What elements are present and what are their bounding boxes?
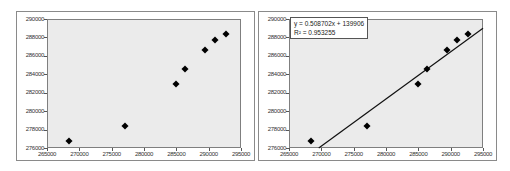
y-axis-tick: [44, 56, 47, 57]
x-axis-tick: [209, 148, 210, 151]
y-axis-tick-label: 282000: [16, 89, 44, 96]
trendline-equation-label[interactable]: y = 0.508702x + 139906 R² = 0.953255: [290, 17, 368, 39]
y-axis-tick: [44, 37, 47, 38]
y-axis-tick: [44, 93, 47, 94]
scatter-chart-with-trendline[interactable]: y = 0.508702x + 139906 R² = 0.953255 290…: [258, 11, 497, 161]
x-axis-tick-label: 285000: [160, 151, 192, 158]
y-axis-tick-label: 290000: [16, 16, 44, 23]
y-axis-tick-label: 288000: [16, 34, 44, 41]
x-axis-tick-label: 270000: [63, 151, 95, 158]
y-axis-tick-label: 278000: [16, 126, 44, 133]
x-axis-tick: [79, 148, 80, 151]
x-axis-tick-label: 295000: [225, 151, 257, 158]
y-axis-tick-label: 286000: [16, 52, 44, 59]
x-axis-tick: [144, 148, 145, 151]
y-axis-tick-label: 280000: [16, 108, 44, 115]
y-axis-tick-label: 284000: [16, 71, 44, 78]
x-axis-tick: [176, 148, 177, 151]
equation-text: y = 0.508702x + 139906: [294, 19, 364, 28]
y-axis-tick: [44, 19, 47, 20]
x-axis-tick-label: 290000: [193, 151, 225, 158]
x-axis-tick-label: 280000: [128, 151, 160, 158]
scatter-chart-raw[interactable]: 2900002880002860002840002820002800002780…: [16, 11, 255, 161]
y-axis-tick: [44, 130, 47, 131]
y-axis-tick: [44, 111, 47, 112]
r-squared-text: R² = 0.953255: [294, 28, 364, 37]
x-axis-tick-label: 265000: [31, 151, 63, 158]
x-axis-tick: [112, 148, 113, 151]
x-axis-tick: [47, 148, 48, 151]
x-axis-tick-label: 275000: [96, 151, 128, 158]
y-axis-tick: [44, 74, 47, 75]
x-axis-tick: [241, 148, 242, 151]
